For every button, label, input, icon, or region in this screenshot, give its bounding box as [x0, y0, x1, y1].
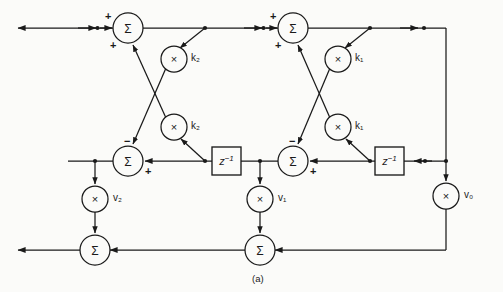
mult-v2-symbol: ×	[92, 193, 98, 205]
mult-v0-symbol: ×	[443, 190, 449, 202]
gain-label-k1-upper: k₁	[355, 53, 363, 63]
gain-label-v2: v₂	[113, 193, 122, 203]
mult-k1-lower-symbol: ×	[335, 121, 341, 133]
mult-k2-upper-symbol: ×	[171, 53, 177, 65]
mult-k1-upper-symbol: ×	[335, 53, 341, 65]
junction-dot	[203, 159, 207, 163]
sum-mid-left-symbol: Σ	[124, 155, 131, 169]
junction-dot	[423, 159, 427, 163]
v0-to-bottom-rail	[275, 209, 446, 250]
figure-caption: (a)	[252, 274, 264, 284]
sum-mid-right-symbol: Σ	[289, 155, 296, 169]
gain-label-k2-lower: k₂	[191, 121, 200, 131]
sum-top-right-symbol: Σ	[289, 22, 296, 36]
figure-container: Σ Σ Σ Σ Σ Σ × × × × × × × z−1 z−1 + + + …	[0, 0, 503, 292]
gain-label-v1: v₁	[278, 193, 286, 203]
junction-dot	[368, 159, 372, 163]
sign-top-left-input: +	[105, 11, 111, 22]
k2-lower-feed	[181, 139, 205, 161]
k1-lower-feed	[346, 139, 370, 161]
signal-flow-diagram: Σ Σ Σ Σ Σ Σ × × × × × × × z−1 z−1	[0, 0, 503, 292]
sign-top-right-feedback: +	[275, 40, 281, 51]
mult-v1-symbol: ×	[257, 193, 263, 205]
sign-top-right-input: +	[270, 11, 276, 22]
gain-label-k1-lower: k₁	[355, 121, 363, 131]
gain-label-k2-upper: k₂	[191, 53, 200, 63]
sum-bottom-center-symbol: Σ	[256, 244, 263, 258]
k2-upper-feed	[180, 28, 205, 48]
sign-mid-left-minus: −	[124, 136, 130, 147]
gain-label-v0: v₀	[464, 190, 473, 200]
sum-bottom-left-symbol: Σ	[91, 244, 98, 258]
mult-k2-lower-symbol: ×	[171, 121, 177, 133]
k1-upper-feed	[345, 28, 370, 48]
junction-dot	[95, 26, 99, 30]
sign-mid-right-plus: +	[310, 166, 316, 177]
junction-dot	[422, 26, 426, 30]
sign-mid-left-plus: +	[145, 166, 151, 177]
sign-top-left-feedback: +	[110, 40, 116, 51]
sign-mid-right-minus: −	[289, 136, 295, 147]
sum-top-left-symbol: Σ	[124, 22, 131, 36]
junction-dot	[261, 26, 265, 30]
